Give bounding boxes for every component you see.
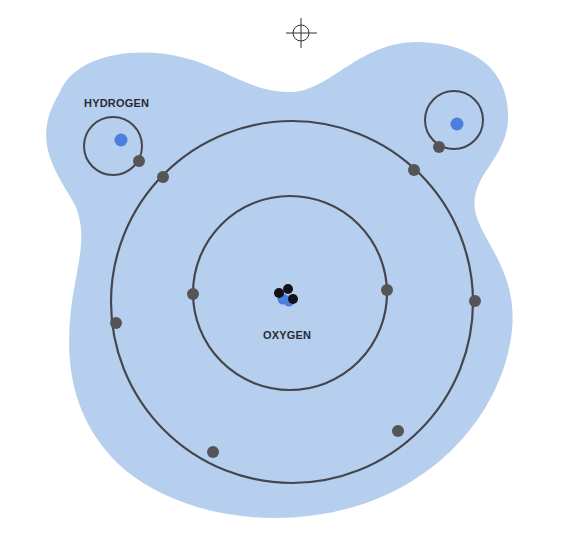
hydrogen-label: HYDROGEN	[84, 97, 149, 109]
hydrogen-right-electron	[433, 141, 445, 153]
registration-crosshair-icon	[286, 18, 317, 48]
hydrogen-right-proton	[451, 118, 464, 131]
oxygen-outer-electron	[110, 317, 122, 329]
electron-cloud	[46, 42, 513, 518]
hydrogen-left-electron	[133, 155, 145, 167]
oxygen-outer-electron	[207, 446, 219, 458]
oxygen-inner-electron	[381, 284, 393, 296]
water-molecule-diagram: HYDROGEN OXYGEN	[0, 0, 572, 535]
oxygen-outer-electron	[157, 171, 169, 183]
oxygen-label: OXYGEN	[263, 329, 311, 341]
oxygen-outer-electron	[408, 164, 420, 176]
hydrogen-left-proton	[115, 134, 128, 147]
oxygen-outer-electron	[469, 295, 481, 307]
oxygen-outer-electron	[392, 425, 404, 437]
oxygen-inner-electron	[187, 288, 199, 300]
